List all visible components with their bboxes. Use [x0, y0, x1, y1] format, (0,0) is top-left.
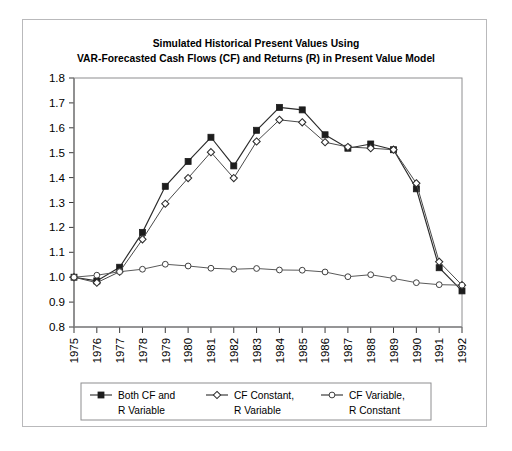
chart-title-line1: Simulated Historical Present Values Usin…: [153, 38, 360, 49]
legend-label-line1: CF Variable,: [349, 390, 405, 401]
x-axis-tick-label: 1982: [228, 338, 240, 363]
data-point-marker: [329, 392, 335, 398]
plot-area-frame: [74, 78, 462, 327]
data-point-marker: [98, 392, 104, 398]
series-line: [74, 264, 462, 285]
x-axis-tick-label: 1988: [365, 338, 377, 363]
data-point-marker: [71, 274, 77, 280]
y-axis-tick-label: 0.9: [49, 295, 65, 308]
x-axis-tick-label: 1990: [411, 338, 423, 363]
legend-label-line1: Both CF and: [118, 390, 176, 401]
data-point-marker: [459, 282, 465, 288]
data-point-marker: [322, 269, 328, 275]
data-point-marker: [299, 267, 305, 273]
legend-label-line2: R Variable: [234, 405, 281, 416]
y-axis-tick-label: 1.8: [49, 71, 65, 84]
legend-label-line2: R Constant: [349, 405, 400, 416]
legend-label-line1: CF Constant,: [234, 390, 294, 401]
data-point-marker: [185, 158, 191, 164]
series-line: [74, 120, 462, 285]
data-point-marker: [117, 269, 123, 275]
x-axis-tick-label: 1983: [251, 338, 263, 363]
data-point-marker: [208, 265, 214, 271]
x-axis-tick-label: 1981: [205, 338, 217, 363]
data-point-marker: [254, 127, 260, 133]
data-point-marker: [140, 266, 146, 272]
data-point-marker: [231, 163, 237, 169]
chart-title-line2: VAR-Forecasted Cash Flows (CF) and Retur…: [77, 53, 435, 64]
x-axis-tick-label: 1978: [137, 338, 149, 363]
x-axis-tick-label: 1975: [68, 338, 80, 363]
data-point-marker: [368, 272, 374, 278]
x-axis-tick-label: 1985: [297, 338, 309, 363]
data-point-marker: [208, 134, 214, 140]
data-point-marker: [391, 276, 397, 282]
x-axis-tick-label: 1979: [160, 338, 172, 363]
y-axis-tick-label: 1.1: [49, 245, 65, 258]
data-series: [71, 104, 465, 294]
data-series: [70, 116, 465, 289]
y-axis: 0.80.91.01.11.21.31.41.51.61.71.8: [49, 71, 74, 333]
chart-canvas: Simulated Historical Present Values Usin…: [0, 0, 512, 451]
y-axis-tick-label: 1.3: [49, 196, 65, 209]
y-axis-tick-label: 1.4: [49, 171, 66, 184]
data-point-marker: [413, 280, 419, 286]
y-axis-tick-label: 1.7: [49, 96, 65, 109]
data-point-marker: [254, 266, 260, 272]
x-axis-tick-label: 1991: [433, 338, 445, 363]
y-axis-tick-label: 0.8: [49, 320, 65, 333]
figure-container: Simulated Historical Present Values Usin…: [0, 0, 512, 451]
data-point-marker: [436, 282, 442, 288]
x-axis-tick-label: 1986: [319, 338, 331, 363]
x-axis-tick-label: 1977: [114, 338, 126, 363]
data-series-group: [70, 104, 465, 294]
x-axis-tick-label: 1992: [456, 338, 468, 363]
x-axis-tick-label: 1976: [91, 338, 103, 363]
x-axis-tick-label: 1987: [342, 338, 354, 363]
data-point-marker: [322, 132, 328, 138]
data-point-marker: [277, 267, 283, 273]
data-point-marker: [139, 229, 145, 235]
data-point-marker: [276, 104, 282, 110]
x-axis-tick-label: 1989: [388, 338, 400, 363]
y-axis-tick-label: 1.2: [49, 220, 65, 233]
data-point-marker: [231, 266, 237, 272]
data-point-marker: [185, 263, 191, 269]
data-point-marker: [299, 107, 305, 113]
y-axis-tick-label: 1.5: [49, 146, 65, 159]
y-axis-tick-label: 1.0: [49, 270, 65, 283]
data-point-marker: [162, 261, 168, 267]
data-series: [71, 261, 465, 288]
series-line: [74, 107, 462, 291]
y-axis-tick-label: 1.6: [49, 121, 65, 134]
x-axis: 1975197619771978197919801981198219831984…: [68, 327, 468, 363]
data-point-marker: [162, 183, 168, 189]
x-axis-tick-label: 1984: [274, 338, 286, 363]
data-point-marker: [94, 272, 100, 278]
chart-legend: Both CF andR VariableCF Constant,R Varia…: [81, 383, 431, 420]
x-axis-tick-label: 1980: [182, 338, 194, 363]
legend-label-line2: R Variable: [118, 405, 165, 416]
data-point-marker: [345, 274, 351, 280]
